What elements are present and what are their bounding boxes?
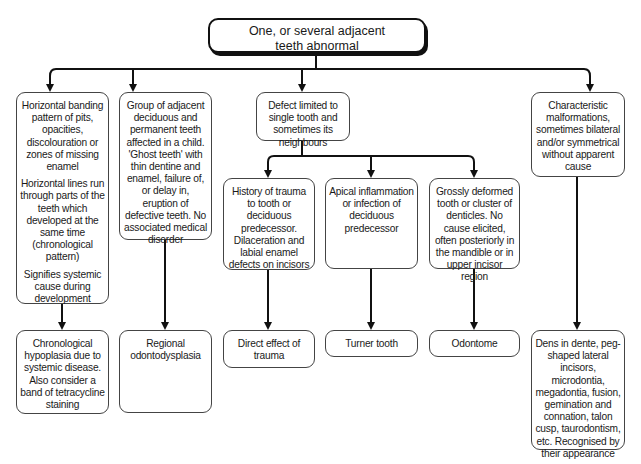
direct-trauma-text: Direct effect of trauma bbox=[227, 338, 311, 362]
root-node: One, or several adjacent teeth abnormal bbox=[208, 18, 426, 53]
outcome-turner-tooth: Turner tooth bbox=[325, 330, 418, 357]
outcome-regional-odontodysplasia: Regional odontodysplasia bbox=[119, 330, 212, 413]
apical-description: Apical inflammation or infection of deci… bbox=[329, 186, 414, 235]
node-single-tooth: Defect limited to single tooth and somet… bbox=[256, 92, 350, 141]
single-description: Defect limited to single tooth and somet… bbox=[260, 100, 346, 149]
hypoplasia-text: Chronological hypoplasia due to systemic… bbox=[20, 338, 105, 411]
odontome-text: Odontome bbox=[433, 338, 516, 350]
odontodysplasia-text: Regional odontodysplasia bbox=[123, 338, 208, 362]
outcome-dens-in-dente: Dens in dente, peg-shaped lateral inciso… bbox=[531, 330, 625, 450]
deformed-description: Grossly deformed tooth or cluster of den… bbox=[433, 186, 516, 284]
outcome-odontome: Odontome bbox=[429, 330, 520, 357]
malformations-description: Characteristic malformations, sometimes … bbox=[535, 100, 621, 173]
outcome-direct-trauma: Direct effect of trauma bbox=[223, 330, 315, 368]
root-line-2: teeth abnormal bbox=[214, 39, 420, 54]
banding-description: Horizontal banding pattern of pits, opac… bbox=[20, 100, 105, 173]
node-apical-inflammation: Apical inflammation or infection of deci… bbox=[325, 178, 418, 269]
turner-tooth-text: Turner tooth bbox=[329, 338, 414, 350]
root-line-1: One, or several adjacent bbox=[214, 24, 420, 39]
outcome-chronological-hypoplasia: Chronological hypoplasia due to systemic… bbox=[16, 330, 109, 414]
trauma-description: History of trauma to tooth or deciduous … bbox=[227, 186, 311, 271]
dens-in-dente-text: Dens in dente, peg-shaped lateral inciso… bbox=[535, 338, 621, 460]
node-adjacent-group: Group of adjacent deciduous and permanen… bbox=[119, 92, 212, 240]
node-grossly-deformed: Grossly deformed tooth or cluster of den… bbox=[429, 178, 520, 269]
node-trauma-history: History of trauma to tooth or deciduous … bbox=[223, 178, 315, 270]
node-banding-pattern: Horizontal banding pattern of pits, opac… bbox=[16, 92, 109, 304]
group-description: Group of adjacent deciduous and permanen… bbox=[123, 100, 208, 246]
banding-lines: Horizontal lines run through parts of th… bbox=[20, 178, 105, 263]
banding-significance: Signifies systemic cause during developm… bbox=[20, 269, 105, 306]
node-characteristic-malformations: Characteristic malformations, sometimes … bbox=[531, 92, 625, 177]
